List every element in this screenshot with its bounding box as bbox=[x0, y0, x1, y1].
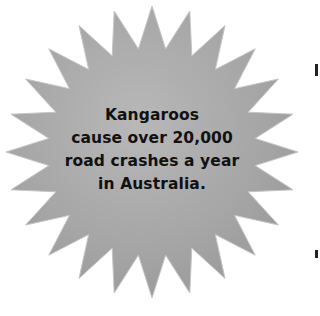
callout-line-2: cause over 20,000 bbox=[50, 127, 254, 150]
callout-line-1: Kangaroos bbox=[50, 104, 254, 127]
callout-text: Kangaroos cause over 20,000 road crashes… bbox=[50, 104, 254, 196]
callout-line-3: road crashes a year bbox=[50, 150, 254, 173]
edge-mark-bottom bbox=[315, 250, 318, 258]
callout-line-4: in Australia. bbox=[50, 173, 254, 196]
edge-mark-top bbox=[315, 64, 318, 76]
